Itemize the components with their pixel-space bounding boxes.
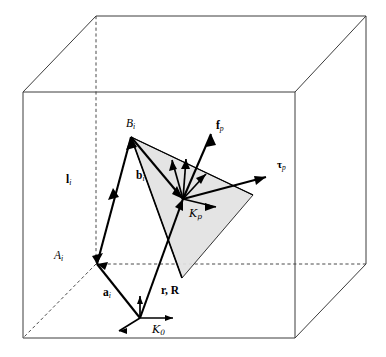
figure-root: Bi Ai li bi ai r, R fp τp Kp K0	[0, 0, 386, 357]
label-vector-l-i: li	[66, 174, 71, 187]
label-point-b-i: Bi	[126, 118, 135, 131]
label-torque-tau-p: τp	[277, 159, 286, 171]
cable-l-i-base-arrowhead	[92, 253, 103, 264]
cube-edge-top-right-diagonal	[295, 16, 366, 92]
label-vector-r-R: r, R	[161, 285, 179, 297]
cable-vector-l	[92, 137, 137, 264]
label-point-a-i: Ai	[54, 250, 63, 263]
label-frame-0: K0	[152, 324, 165, 336]
label-force-f-p: fp	[216, 120, 224, 133]
frame-0-axis-x-arrowhead	[165, 315, 173, 321]
cube-edge-top-left-diagonal	[23, 16, 96, 92]
label-vector-b-i: bi	[136, 170, 145, 183]
kinematics-diagram-svg	[0, 0, 386, 357]
label-vector-a-i: ai	[103, 287, 111, 300]
cube-edge-bottom-left-diagonal	[23, 264, 96, 338]
cube-edge-bottom-right-diagonal	[295, 264, 366, 338]
cable-line-l-i	[97, 137, 131, 264]
frame-0-axis-z-arrowhead	[137, 296, 143, 304]
label-frame-p: Kp	[189, 208, 202, 220]
frame-0-axis-y	[119, 318, 140, 331]
torque-tau-p-arrowhead	[254, 176, 266, 185]
